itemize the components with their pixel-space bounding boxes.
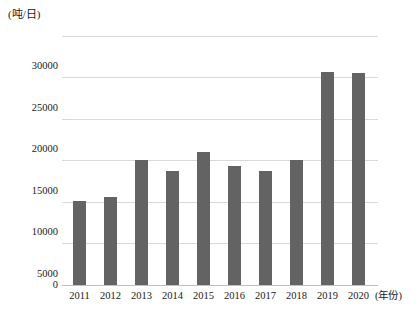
y-tick-label-0: 0: [2, 279, 58, 290]
y-tick-label-20000: 20000: [2, 143, 58, 154]
y-tick-label-10000: 10000: [2, 226, 58, 237]
bar-2013: [135, 160, 148, 285]
x-tick-label-2020: 2020: [339, 289, 379, 303]
bar-2017: [259, 171, 272, 285]
bar-2015: [197, 152, 210, 284]
y-tick-label-30000: 30000: [2, 60, 58, 71]
x-axis-line: [62, 285, 378, 286]
y-tick-label-5000: 5000: [2, 268, 58, 279]
bar-2012: [104, 197, 117, 284]
x-axis-tick-labels: 2011 2012 2013 2014 2015 2016 2017 2018 …: [62, 289, 378, 309]
y-axis-unit-label: (吨/日): [8, 8, 40, 21]
bar-2011: [73, 201, 86, 284]
y-tick-label-15000: 15000: [2, 185, 58, 196]
bar-2018: [290, 160, 303, 285]
bar-series: [62, 35, 378, 285]
bar-chart: (吨/日) 30000 25000 20000 15000 10000 5000…: [0, 0, 420, 316]
y-axis-tick-labels: 30000 25000 20000 15000 10000 5000 0: [0, 30, 58, 290]
y-tick-label-25000: 25000: [2, 102, 58, 113]
x-axis-unit-label: (年份): [375, 289, 402, 303]
bar-2014: [166, 171, 179, 285]
bar-2019: [321, 72, 334, 285]
bar-2020: [352, 73, 365, 284]
bar-2016: [228, 166, 241, 284]
